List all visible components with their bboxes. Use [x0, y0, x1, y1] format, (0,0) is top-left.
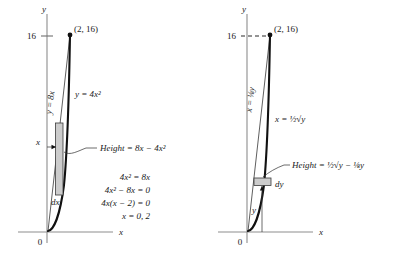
- height-label: Height = ½√y − ⅛y: [291, 160, 364, 170]
- line-label-y-equals-8x: y = 8x: [44, 91, 57, 116]
- curve-label-y-equals-4x-squared: y = 4x²: [74, 89, 101, 99]
- y-distance-label: y: [251, 205, 256, 215]
- intersection-point-label: (2, 16): [274, 24, 298, 34]
- y-axis-label: y: [241, 4, 246, 14]
- x-distance-label: x: [35, 137, 40, 147]
- left-panel-dx: y x 16 0 x dx y = 8x y = 4x² Height = 8x…: [0, 0, 196, 272]
- work-line-4: x = 0, 2: [121, 211, 151, 221]
- representative-strip-dx: [56, 123, 64, 195]
- x-axis-label: x: [318, 227, 323, 237]
- y-axis-label: y: [41, 4, 46, 14]
- work-line-3: 4x(x − 2) = 0: [101, 198, 150, 208]
- work-line-2: 4x² − 8x = 0: [105, 185, 151, 195]
- intersection-point-marker: [268, 33, 273, 38]
- y-tick-label-16: 16: [27, 31, 37, 41]
- intersection-point-label: (2, 16): [74, 24, 98, 34]
- height-label: Height = 8x − 4x²: [99, 143, 166, 153]
- x-axis-label: x: [118, 227, 123, 237]
- figure-root: y x 16 0 x dx y = 8x y = 4x² Height = 8x…: [0, 0, 395, 272]
- dy-label: dy: [275, 179, 284, 189]
- curve-label-x-equals-half-sqrt-y: x = ½√y: [274, 114, 305, 124]
- work-line-1: 4x² = 8x: [120, 172, 150, 182]
- right-panel-dy: y x 16 0 y dy x = ⅛y x = ½√y Height = ½√…: [196, 0, 395, 272]
- origin-label: 0: [38, 237, 43, 247]
- y-tick-label-16: 16: [227, 31, 237, 41]
- origin-label: 0: [238, 237, 243, 247]
- intersection-point-marker: [68, 33, 73, 38]
- dx-label: dx: [51, 197, 60, 207]
- line-label-x-equals-one-eighth-y: x = ⅛y: [243, 86, 256, 113]
- representative-strip-dy: [254, 178, 271, 186]
